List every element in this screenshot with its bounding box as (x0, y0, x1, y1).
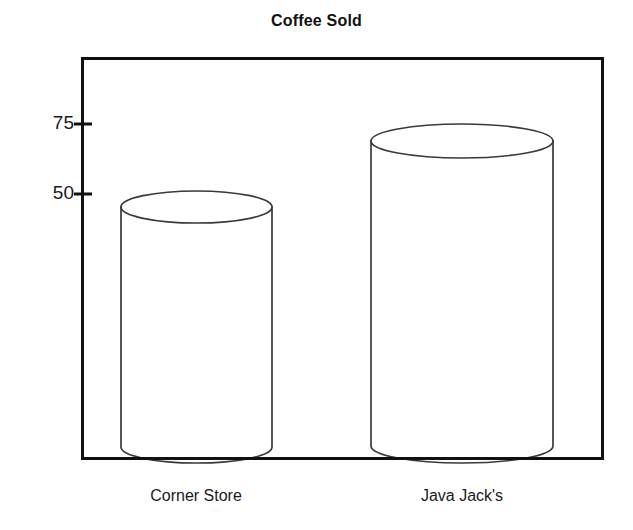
y-axis-tick-label-75: 75 (28, 112, 74, 134)
x-axis-category-label-corner-store: Corner Store (96, 487, 296, 505)
chart-container: Coffee Sold 75 50 Corner Store Java Jack… (0, 0, 633, 530)
bar-body-0 (121, 207, 272, 463)
bar-cylinder-java-jacks[interactable] (371, 124, 553, 463)
plot-area-svg (0, 0, 633, 530)
x-axis-category-label-java-jacks: Java Jack's (362, 487, 562, 505)
bar-top-ellipse-0 (121, 191, 272, 223)
y-axis-tick-label-50: 50 (28, 182, 74, 204)
bar-body-1 (371, 141, 553, 463)
bar-cylinder-corner-store[interactable] (121, 191, 272, 463)
bar-top-ellipse-1 (371, 124, 553, 158)
